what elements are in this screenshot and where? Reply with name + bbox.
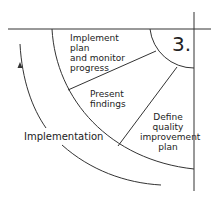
phase-label: Implementation — [24, 132, 103, 142]
step-number: 3. — [172, 34, 191, 54]
segment-implement-plan: Implement plan and monitor progress — [70, 33, 134, 73]
segment-define-plan: Define quality improvement plan — [140, 112, 196, 152]
segment-present-findings: Present findings — [90, 89, 130, 109]
outer-arc-upper — [20, 44, 46, 128]
